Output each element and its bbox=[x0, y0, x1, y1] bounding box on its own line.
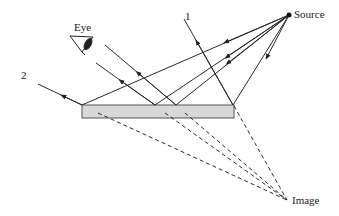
virtual-ray-b bbox=[165, 113, 287, 200]
mirror-reflection-diagram bbox=[0, 0, 339, 216]
virtual-ray-c bbox=[185, 113, 287, 200]
ray-2-label: 2 bbox=[21, 70, 27, 81]
source-label: Source bbox=[294, 9, 325, 20]
virtual-ray-a bbox=[98, 113, 287, 200]
ray-1-label: 1 bbox=[185, 11, 191, 22]
source-point bbox=[287, 13, 292, 18]
incident-ray-d bbox=[233, 15, 289, 105]
image-label: Image bbox=[292, 195, 319, 206]
virtual-ray-d bbox=[234, 106, 287, 200]
eye-icon bbox=[70, 36, 94, 55]
eye-label: Eye bbox=[74, 22, 91, 33]
